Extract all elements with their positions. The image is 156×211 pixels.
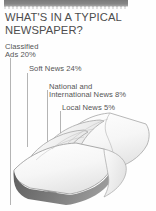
newspaper-content-infographic: WHAT'S IN A TYPICAL NEWSPAPER? Classifie… bbox=[0, 0, 156, 211]
callout-label-national-international-news: National and International News 8% bbox=[49, 83, 126, 100]
callout-label-soft-news: Soft News 24% bbox=[29, 65, 82, 73]
page-title: WHAT'S IN A TYPICAL NEWSPAPER? bbox=[5, 11, 153, 36]
cropped-headline-texture bbox=[4, 6, 128, 9]
newspaper-stack-illustration bbox=[0, 108, 156, 211]
newspaper-layer-classified-ads bbox=[14, 143, 127, 205]
